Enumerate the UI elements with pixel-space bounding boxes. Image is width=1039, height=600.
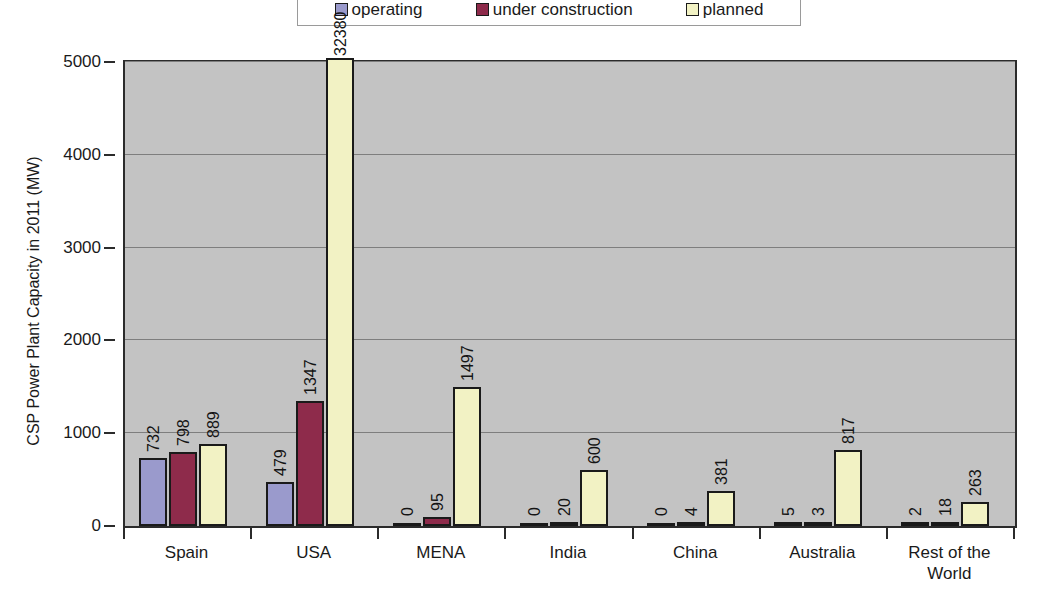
legend-label: operating [352, 1, 423, 18]
x-category-label: China [632, 542, 759, 563]
x-category-label: Spain [123, 542, 250, 563]
bar-value-label: 0 [527, 507, 543, 516]
bar-value-label: 798 [176, 419, 192, 446]
bar-value-label: 18 [938, 498, 954, 516]
y-axis-ticks: 010002000300040005000 [0, 60, 123, 528]
y-tick-mark [104, 247, 115, 249]
bar-mena-under-construction[interactable] [423, 517, 451, 526]
bar-china-under-construction[interactable] [677, 522, 705, 526]
legend-label: under construction [493, 1, 633, 18]
bar-value-label: 0 [654, 507, 670, 516]
x-tick-mark [377, 528, 379, 539]
bar-value-label: 32380 [333, 12, 349, 57]
bar-australia-under-construction[interactable] [804, 522, 832, 526]
gridline [125, 247, 1015, 248]
y-tick-label: 5000 [63, 53, 101, 70]
bar-spain-under-construction[interactable] [169, 452, 197, 526]
bar-rest-of-the-world-under-construction[interactable] [931, 522, 959, 526]
bar-value-label: 4 [684, 507, 700, 516]
bar-value-label: 1497 [460, 346, 476, 382]
bar-value-label: 817 [841, 417, 857, 444]
gridline [125, 154, 1015, 155]
x-axis: SpainUSAMENAIndiaChinaAustraliaRest of t… [123, 528, 1017, 600]
bar-value-label: 0 [400, 507, 416, 516]
bar-value-label: 2 [908, 507, 924, 516]
legend-swatch-icon [686, 3, 699, 16]
bar-usa-planned[interactable] [326, 58, 354, 526]
bar-rest-of-the-world-operating[interactable] [901, 522, 929, 526]
y-tick-label: 3000 [63, 239, 101, 256]
bar-mena-operating[interactable] [393, 523, 421, 526]
bar-value-label: 479 [273, 449, 289, 476]
x-tick-mark [759, 528, 761, 539]
bar-australia-operating[interactable] [774, 522, 802, 526]
y-tick-label: 4000 [63, 146, 101, 163]
x-tick-mark [632, 528, 634, 539]
chart-figure: operatingunder constructionplanned CSP P… [0, 0, 1039, 600]
bar-value-label: 20 [557, 498, 573, 516]
bar-australia-planned[interactable] [834, 450, 862, 526]
x-category-label: USA [250, 542, 377, 563]
bar-value-label: 3 [811, 507, 827, 516]
bar-value-label: 732 [146, 425, 162, 452]
bar-rest-of-the-world-planned[interactable] [961, 502, 989, 526]
x-category-label: MENA [377, 542, 504, 563]
x-tick-mark [123, 528, 125, 539]
y-tick-mark [104, 432, 115, 434]
bar-value-label: 600 [587, 438, 603, 465]
y-tick-mark [104, 154, 115, 156]
gridline [125, 432, 1015, 433]
bar-india-under-construction[interactable] [550, 522, 578, 526]
legend-label: planned [703, 1, 764, 18]
chart-legend: operatingunder constructionplanned [297, 0, 801, 26]
y-tick-mark [104, 61, 115, 63]
x-category-label: Rest of the World [886, 542, 1013, 584]
legend-item-under-construction[interactable]: under construction [476, 1, 633, 18]
x-tick-mark [250, 528, 252, 539]
x-tick-mark [504, 528, 506, 539]
bar-value-label: 263 [968, 469, 984, 496]
y-tick-mark [104, 339, 115, 341]
bar-india-planned[interactable] [580, 470, 608, 526]
legend-swatch-icon [476, 3, 489, 16]
bar-china-planned[interactable] [707, 491, 735, 526]
bar-value-label: 95 [430, 493, 446, 511]
y-tick-label: 1000 [63, 424, 101, 441]
bar-value-label: 5 [781, 507, 797, 516]
bar-mena-planned[interactable] [453, 387, 481, 526]
y-tick-label: 0 [92, 517, 101, 534]
plot-area: 7327988894791347323800951497020600043815… [123, 60, 1017, 528]
x-tick-mark [886, 528, 888, 539]
gridline [125, 61, 1015, 62]
x-category-label: Australia [759, 542, 886, 563]
gridline [125, 339, 1015, 340]
bar-value-label: 1347 [303, 359, 319, 395]
bar-usa-operating[interactable] [266, 482, 294, 526]
y-tick-mark [104, 525, 115, 527]
bar-india-operating[interactable] [520, 523, 548, 526]
y-tick-label: 2000 [63, 331, 101, 348]
x-category-label: India [504, 542, 631, 563]
legend-item-planned[interactable]: planned [686, 1, 764, 18]
bar-value-label: 381 [714, 458, 730, 485]
bar-value-label: 889 [206, 411, 222, 438]
bar-spain-planned[interactable] [199, 444, 227, 526]
bar-spain-operating[interactable] [139, 458, 167, 526]
bar-china-operating[interactable] [647, 523, 675, 526]
x-tick-mark [1013, 528, 1015, 539]
bar-usa-under-construction[interactable] [296, 401, 324, 526]
